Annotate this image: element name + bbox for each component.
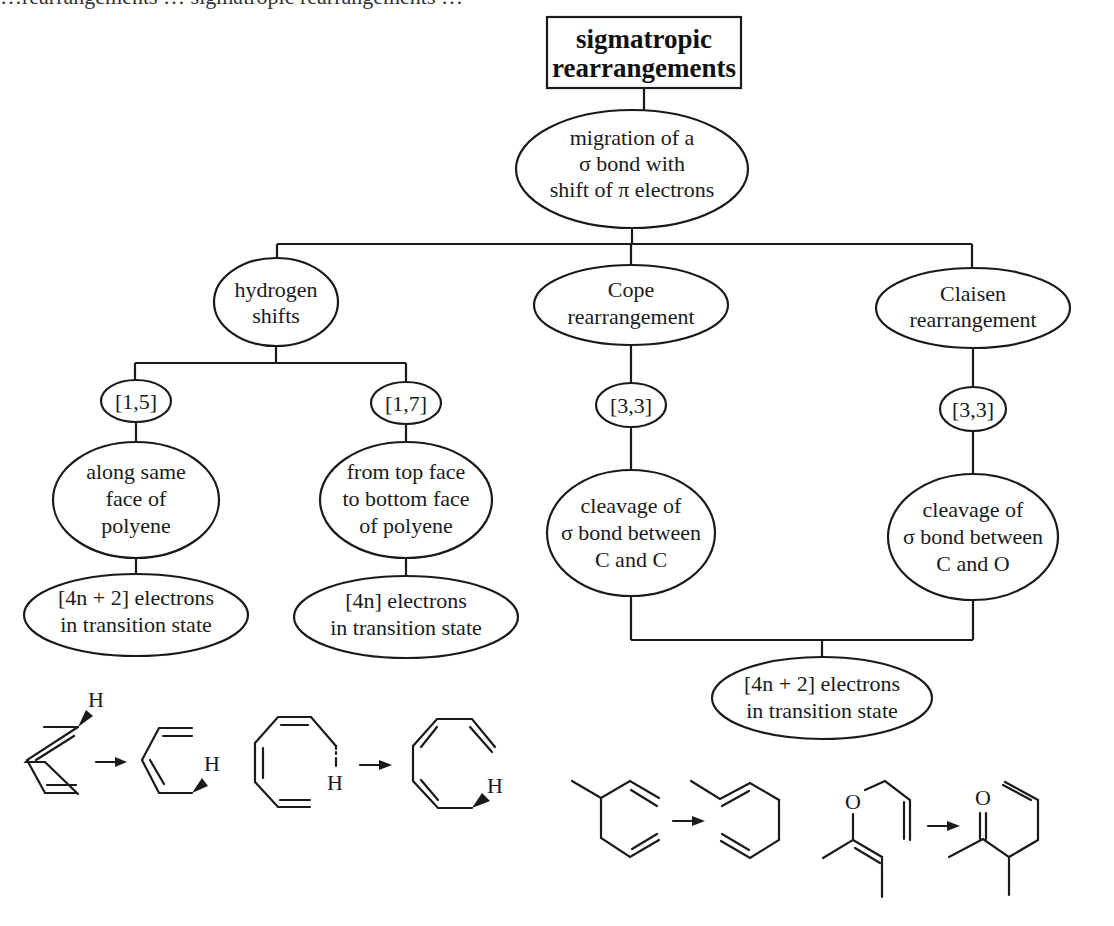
node-along-same-face: along same face of polyene [53,442,219,558]
node-cope-order-3-3: [3,3] [596,383,666,427]
h-atom-label: H [327,770,343,795]
reaction-arrow-1-7 [360,760,392,770]
structure-1-5-reactant: H [26,687,104,794]
h-atom-label: H [88,687,104,712]
same-face-line-2: face of [106,486,167,511]
reaction-arrow-1-5 [96,757,127,767]
electrons-shared-line-1: [4n + 2] electrons [744,671,900,696]
structure-claisen-reactant: O [823,781,910,897]
reaction-arrow-claisen [928,821,960,831]
electrons-4n-line-2: in transition state [330,615,482,640]
node-claisen-rearrangement: Claisen rearrangement [876,268,1070,348]
node-electrons-4n-plus-2-left: [4n + 2] electrons in transition state [24,574,248,656]
root-node-migration: migration of a σ bond with shift of π el… [516,110,748,228]
structure-1-5-product: H [142,728,220,793]
cope-cleavage-line-1: cleavage of [581,493,682,518]
node-order-1-7: [1,7] [371,382,441,424]
node-claisen-order-3-3: [3,3] [940,387,1006,431]
o-atom-label-product: O [975,785,991,810]
root-line-2: σ bond with [579,151,685,176]
root-line-1: migration of a [570,125,695,150]
electrons-left-line-1: [4n + 2] electrons [58,585,214,610]
order-1-5-label: [1,5] [115,389,157,414]
claisen-cleavage-line-2: σ bond between [903,524,1043,549]
node-electrons-4n: [4n] electrons in transition state [294,576,518,658]
claisen-cleavage-line-1: cleavage of [923,497,1024,522]
hydrogen-line-1: hydrogen [234,277,317,302]
hydrogen-line-2: shifts [252,303,300,328]
same-face-line-3: polyene [101,513,171,538]
title-line-2: rearrangements [552,53,736,83]
claisen-cleavage-line-3: C and O [936,551,1009,576]
structure-claisen-product: O [949,782,1038,895]
same-face-line-1: along same [86,459,186,484]
node-hydrogen-shifts: hydrogen shifts [214,258,338,346]
cope-cleavage-line-3: C and C [595,547,667,572]
claisen-line-2: rearrangement [909,307,1036,332]
root-line-3: shift of π electrons [550,177,714,202]
structure-1-7-product: H [413,719,503,808]
cope-line-1: Cope [608,277,654,302]
node-electrons-4n-plus-2-shared: [4n + 2] electrons in transition state [712,657,932,739]
order-1-7-label: [1,7] [385,391,427,416]
node-order-1-5: [1,5] [101,380,171,422]
electrons-shared-line-2: in transition state [746,698,898,723]
top-bottom-line-2: to bottom face [342,486,469,511]
structure-1-7-reactant: H [255,717,343,807]
h-atom-label-product: H [204,751,220,776]
cropped-caption-text: …rearrangements … sigmatropic rearrangem… [0,0,463,9]
cope-cleavage-line-2: σ bond between [561,520,701,545]
cope-order-label: [3,3] [610,393,652,418]
o-atom-label: O [845,789,861,814]
title-box: sigmatropic rearrangements [547,17,741,88]
reaction-arrow-cope [673,816,705,826]
electrons-4n-line-1: [4n] electrons [345,588,467,613]
electrons-left-line-2: in transition state [60,612,212,637]
sigmatropic-concept-map: …rearrangements … sigmatropic rearrangem… [0,0,1114,926]
top-bottom-line-1: from top face [347,459,466,484]
h-atom-label-product: H [487,773,503,798]
node-claisen-cleavage: cleavage of σ bond between C and O [888,474,1058,600]
node-top-to-bottom-face: from top face to bottom face of polyene [320,442,492,558]
cope-line-2: rearrangement [567,304,694,329]
claisen-order-label: [3,3] [952,397,994,422]
structure-cope-product [691,781,779,858]
claisen-line-1: Claisen [940,281,1006,306]
node-cope-rearrangement: Cope rearrangement [534,265,728,345]
top-bottom-line-3: of polyene [359,513,452,538]
structure-cope-reactant [572,781,659,857]
title-line-1: sigmatropic [576,24,712,54]
node-cope-cleavage: cleavage of σ bond between C and C [547,470,715,596]
